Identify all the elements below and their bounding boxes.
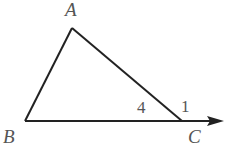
vertex-label-b: B [3,126,15,147]
angle-label-4: 4 [137,98,146,117]
vertex-label-c: C [188,126,201,147]
side-ab [25,28,72,121]
side-ac [72,28,182,121]
triangle-diagram: A B C 4 1 [0,0,234,151]
angle-label-1: 1 [181,97,190,116]
vertex-label-a: A [63,0,77,20]
